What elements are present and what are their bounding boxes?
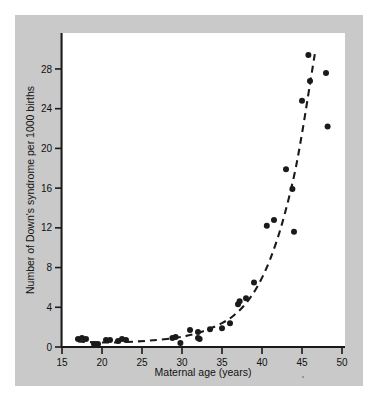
data-point	[307, 78, 313, 84]
y-tick-label: 0	[46, 342, 52, 353]
y-tick-label: 28	[41, 64, 53, 75]
y-tick-label: 24	[41, 103, 53, 114]
y-axis-title: Number of Down's syndrome per 1000 birth…	[24, 86, 36, 294]
data-point	[291, 229, 297, 235]
data-point	[325, 124, 331, 130]
x-tick-label: 20	[96, 357, 108, 368]
data-point	[177, 340, 183, 346]
y-axis-tick-labels: 0481216202428	[41, 64, 53, 353]
data-point	[251, 279, 257, 285]
y-tick-label: 12	[41, 222, 53, 233]
figure-root: 0481216202428 1520253035404550 Maternal …	[0, 0, 378, 407]
data-point	[243, 295, 249, 301]
data-point	[207, 326, 213, 332]
scan-speck	[302, 376, 304, 378]
plot-area-background	[60, 33, 345, 347]
x-tick-label: 25	[136, 357, 148, 368]
data-point	[187, 327, 193, 333]
data-point	[271, 217, 277, 223]
data-point	[323, 70, 329, 76]
x-axis-title: Maternal age (years)	[155, 366, 252, 378]
y-tick-label: 20	[41, 143, 53, 154]
data-point	[83, 336, 89, 342]
x-tick-label: 40	[256, 357, 268, 368]
data-point	[227, 320, 233, 326]
data-point	[283, 166, 289, 172]
data-point	[219, 325, 225, 331]
data-point	[195, 329, 201, 335]
data-point	[299, 98, 305, 104]
x-tick-label: 50	[336, 357, 348, 368]
x-tick-label: 15	[56, 357, 68, 368]
x-tick-label: 45	[296, 357, 308, 368]
data-point	[197, 336, 203, 342]
scatter-plot: 0481216202428 1520253035404550 Maternal …	[0, 0, 378, 407]
y-tick-label: 8	[46, 262, 52, 273]
data-point	[305, 52, 311, 58]
data-point	[123, 337, 129, 343]
data-point	[289, 186, 295, 192]
data-point	[237, 298, 243, 304]
y-tick-label: 16	[41, 183, 53, 194]
data-point	[173, 334, 179, 340]
data-point	[95, 341, 101, 347]
y-tick-label: 4	[46, 302, 52, 313]
data-point	[264, 223, 270, 229]
data-point	[107, 337, 113, 343]
